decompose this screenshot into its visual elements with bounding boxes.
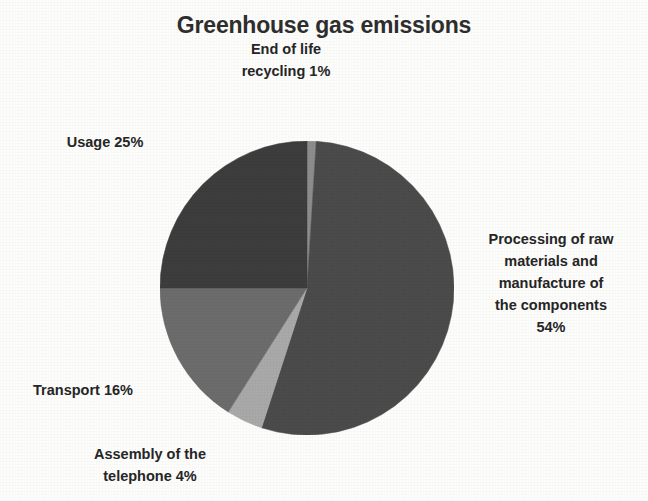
slice-label-assembly-telephone: Assembly of the telephone 4%: [55, 443, 245, 487]
slice-label-end-of-life-recycling: End of life recycling 1%: [206, 38, 366, 82]
pie-chart-figure: Greenhouse gas emissions End of life rec…: [0, 0, 648, 501]
slice-label-processing-raw-materials: Processing of raw materials and manufact…: [465, 228, 637, 338]
pie-svg: [160, 141, 454, 435]
slice-label-usage: Usage 25%: [30, 131, 180, 153]
slice-label-transport: Transport 16%: [8, 379, 158, 401]
chart-title: Greenhouse gas emissions: [0, 12, 648, 39]
pie-graphic: [160, 141, 454, 435]
pie-slice: [160, 141, 307, 288]
